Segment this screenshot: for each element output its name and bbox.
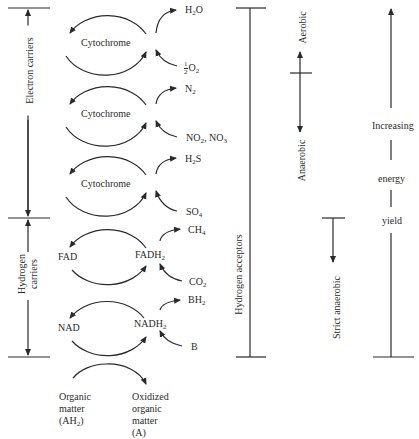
- anaerobic-label: Anaerobic: [296, 133, 307, 189]
- product-bh2: BH2: [188, 294, 205, 309]
- aerobic-label: Aerobic: [297, 7, 308, 49]
- carrier-label-cytochrome-1: Cytochrome: [81, 37, 130, 48]
- carrier-label-cytochrome-3: Cytochrome: [81, 178, 130, 189]
- product-h2o: H2O: [185, 4, 203, 19]
- reactant-so4: SO4: [186, 206, 202, 221]
- oxidized-arc: [106, 364, 146, 384]
- reactant-half-o2: 12O2: [184, 61, 199, 77]
- electron-carriers-label: Electron carriers: [24, 26, 35, 116]
- fraction-one-half: 12: [184, 61, 188, 76]
- carrier-label-nadh2: NADH2: [134, 318, 166, 333]
- energy-increasing-label: Increasing: [372, 120, 414, 131]
- reactant-co2: CO2: [189, 276, 206, 291]
- carrier-label-nad: NAD: [58, 322, 80, 333]
- product-h2s: H2S: [185, 153, 201, 168]
- energy-energy-label: energy: [378, 173, 405, 184]
- reactant-b: B: [191, 341, 198, 352]
- oxidized-organic-matter-label: Oxidized organic matter (A): [132, 391, 169, 439]
- product-ch4: CH4: [188, 224, 205, 239]
- hydrogen-carriers-label: Hydrogen carriers: [16, 252, 40, 296]
- carrier-label-fad: FAD: [58, 251, 77, 262]
- reactant-no2-no3: NO2, NO3: [186, 132, 227, 147]
- organic-matter-arc: [73, 364, 106, 378]
- hydrogen-acceptors-label: Hydrogen acceptors: [233, 224, 244, 326]
- carrier-label-cytochrome-2: Cytochrome: [81, 108, 130, 119]
- product-n2: N2: [185, 83, 196, 98]
- organic-matter-label: Organic matter (AH2): [59, 391, 91, 430]
- carrier-label-fadh2: FADH2: [135, 249, 165, 264]
- energy-yield-label: yield: [382, 215, 402, 226]
- strict-anaerobic-label: Strict anaerobic: [331, 269, 342, 347]
